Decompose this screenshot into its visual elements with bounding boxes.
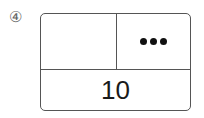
total-cell: 10 (41, 70, 190, 110)
problem-number: ④ (9, 9, 22, 24)
top-right-cell (117, 14, 190, 69)
top-left-cell-blank[interactable] (41, 14, 116, 69)
dot-icon (150, 38, 157, 45)
dot-icon (140, 38, 147, 45)
dot-icon (160, 38, 167, 45)
number-bond-box: 10 (40, 13, 191, 111)
